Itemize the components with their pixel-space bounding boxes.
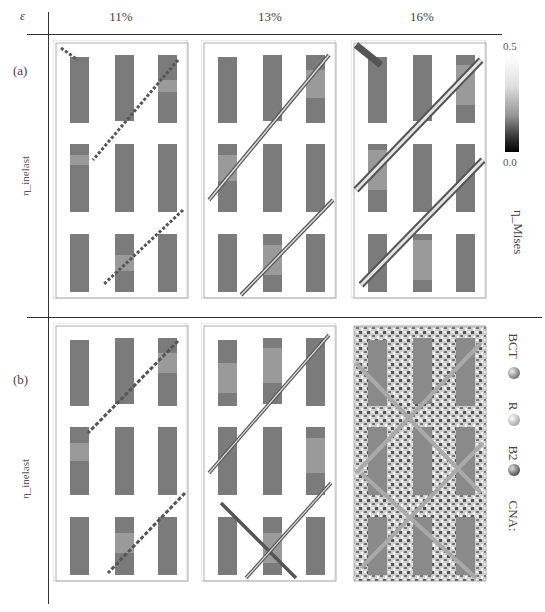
colorbar-axis-label: η_Mises [510,210,526,250]
header-rule [27,34,502,35]
cna-sphere-b2 [508,464,520,476]
row-label-b: (b) [13,372,28,388]
cna-sphere-bct [508,367,520,379]
row-label-a: (a) [13,63,27,79]
colorbar-max-label: 0.5 [503,40,517,52]
row-side-label-b: η_inelast [19,469,31,499]
panel-b-16 [351,323,489,585]
colorbar [505,58,519,152]
panel-b-13 [201,323,339,585]
column-header-16: 16% [392,9,452,25]
cna-sphere-r [508,414,520,426]
epsilon-header: ε [20,8,25,24]
panel-a-16 [351,40,489,302]
column-header-11: 11% [91,9,151,25]
label-column-rule [48,12,49,604]
cna-legend-bct: BCT [505,331,521,361]
row-separator [27,317,542,318]
column-header-13: 13% [240,9,300,25]
panel-a-13 [201,40,339,302]
colorbar-min-label: 0.0 [503,156,517,168]
cna-legend-title: CNA: [505,496,521,536]
row-side-label-a: η_inelast [19,166,31,196]
panel-a-11 [53,40,191,302]
panel-b-11 [53,323,191,585]
